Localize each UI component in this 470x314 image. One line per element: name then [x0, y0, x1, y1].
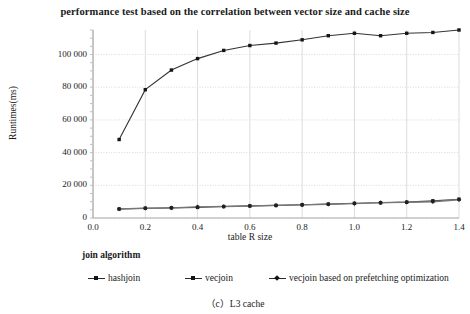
data-point-marker [170, 68, 173, 71]
data-point-marker [431, 31, 434, 34]
x-axis-label: table R size [190, 232, 310, 242]
figure-caption: （c）L3 cache [0, 296, 470, 310]
legend-item-hashjoin[interactable]: hashjoin [88, 270, 140, 286]
legend-marker-icon [269, 274, 286, 283]
legend-label: vecjoin based on prefetching optimizatio… [289, 273, 449, 283]
legend-title: join algorithm [82, 250, 140, 260]
x-tick-label: 1.2 [387, 222, 427, 232]
data-point-marker [196, 57, 199, 60]
data-point-marker [274, 41, 277, 44]
y-tick-label: 20 000 [27, 179, 87, 189]
legend-item-vecjoin[interactable]: vecjoin [185, 270, 233, 286]
plot-area: 020 00040 00060 00080 000100 000 0.00.20… [0, 0, 470, 245]
legend-label: vecjoin [205, 273, 233, 283]
data-point-marker [405, 32, 408, 35]
y-tick-label: 100 000 [27, 49, 87, 59]
x-tick-label: 0.8 [282, 222, 322, 232]
x-tick-label: 0.6 [230, 222, 270, 232]
y-tick-label: 60 000 [27, 114, 87, 124]
data-point-marker [379, 34, 382, 37]
y-tick-label: 40 000 [27, 147, 87, 157]
chart-figure: performance test based on the correlatio… [0, 0, 470, 314]
x-tick-label: 1.4 [439, 222, 470, 232]
x-tick-label: 0.4 [178, 222, 218, 232]
legend-marker-icon [88, 274, 105, 283]
y-tick-label: 80 000 [27, 81, 87, 91]
data-point-marker [327, 34, 330, 37]
legend: join algorithm hashjoin vecjoin vecjoin … [0, 250, 470, 314]
legend-item-vecjoin-prefetch[interactable]: vecjoin based on prefetching optimizatio… [269, 270, 449, 286]
data-point-marker [144, 88, 147, 91]
x-tick-label: 0.2 [125, 222, 165, 232]
series-line-0 [119, 30, 459, 140]
data-point-marker [353, 32, 356, 35]
x-tick-label: 0.0 [73, 222, 113, 232]
data-point-marker [248, 44, 251, 47]
data-point-marker [117, 138, 120, 141]
legend-entries: hashjoin vecjoin vecjoin based on prefet… [82, 270, 470, 286]
legend-marker-icon [185, 274, 202, 283]
data-point-marker [222, 49, 225, 52]
gridlines [93, 30, 459, 218]
legend-label: hashjoin [108, 273, 140, 283]
y-axis-label: Runtimes(ms) [8, 68, 18, 158]
x-tick-label: 1.0 [334, 222, 374, 232]
data-point-marker [457, 28, 460, 31]
y-tick-label: 0 [27, 212, 87, 222]
data-point-marker [300, 38, 303, 41]
